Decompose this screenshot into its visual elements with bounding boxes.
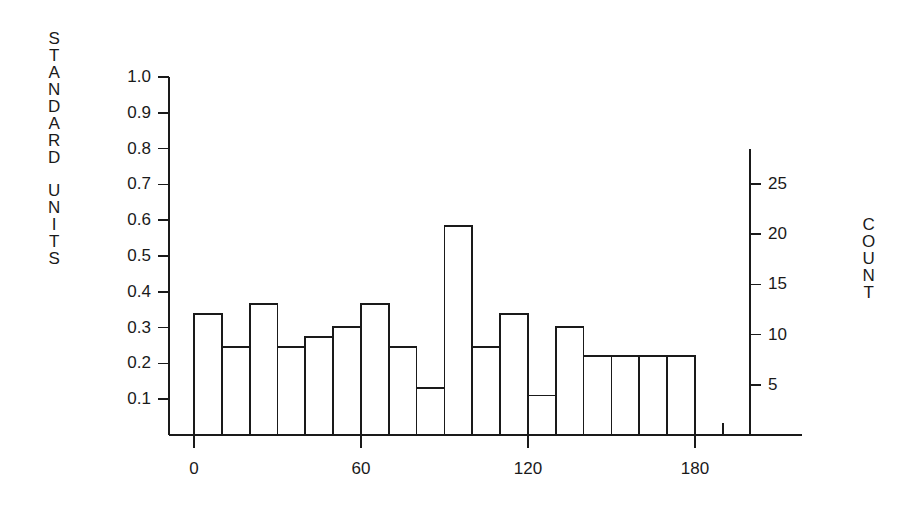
- axis-title-char: N: [48, 81, 60, 98]
- axis-title-char: N: [862, 267, 874, 284]
- histogram-bar: [444, 226, 472, 435]
- axis-title-char: S: [48, 30, 59, 47]
- x-axis-tick-label-1: 60: [352, 459, 371, 479]
- axis-title-char: A: [48, 64, 59, 81]
- y-axis-tick-label-5: 0.6: [127, 210, 151, 230]
- histogram-bar: [250, 304, 278, 435]
- axis-title-char: S: [48, 250, 59, 267]
- y2-axis-tick-label-4: 25: [768, 174, 787, 194]
- x-axis-tick-label-0: 0: [189, 459, 198, 479]
- y-axis-tick-label-7: 0.8: [127, 139, 151, 159]
- histogram-bar: [611, 356, 639, 435]
- axis-title-char: T: [49, 47, 59, 64]
- y2-axis-tick-label-3: 20: [768, 224, 787, 244]
- histogram-bar: [361, 304, 389, 435]
- axis-title-char: D: [48, 149, 60, 166]
- histogram-bar: [194, 314, 222, 435]
- y-axis-tick-label-8: 0.9: [127, 103, 151, 123]
- histogram-bar: [222, 347, 250, 435]
- histogram-bar: [389, 347, 417, 435]
- axis-title-char: N: [48, 199, 60, 216]
- y-axis-tick-label-2: 0.3: [127, 318, 151, 338]
- axis-title-char: U: [862, 250, 874, 267]
- axis-title-char: R: [48, 132, 60, 149]
- axis-title-char: O: [862, 233, 875, 250]
- y-axis-tick-label-0: 0.1: [127, 389, 151, 409]
- axis-title-char: T: [49, 233, 59, 250]
- y-axis-tick-label-1: 0.2: [127, 353, 151, 373]
- y2-axis-tick-label-2: 15: [768, 274, 787, 294]
- histogram-bar: [500, 314, 528, 435]
- histogram-bar: [556, 327, 584, 435]
- y-axis-title-standard-units: STANDARDUNITS: [48, 30, 60, 267]
- x-axis-tick-label-2: 120: [514, 459, 542, 479]
- axis-title-char: T: [863, 284, 873, 301]
- axis-title-char: C: [862, 216, 874, 233]
- histogram-bar: [305, 337, 333, 435]
- histogram-bar: [417, 388, 445, 435]
- histogram-bar: [639, 356, 667, 435]
- axis-title-char: U: [48, 182, 60, 199]
- y2-axis-title-count: COUNT: [862, 216, 875, 301]
- y2-axis-tick-label-0: 5: [768, 375, 777, 395]
- y-axis-tick-label-4: 0.5: [127, 246, 151, 266]
- y2-axis-tick-label-1: 10: [768, 325, 787, 345]
- chart-geometry: [158, 77, 802, 448]
- axis-title-char: A: [48, 115, 59, 132]
- axis-title-char: D: [48, 98, 60, 115]
- y-axis-tick-label-9: 1.0: [127, 67, 151, 87]
- histogram-bar: [584, 356, 612, 435]
- histogram-bar: [528, 396, 556, 435]
- histogram-figure: STANDARDUNITS COUNT 0.10.20.30.40.50.60.…: [0, 0, 918, 527]
- y-axis-tick-label-6: 0.7: [127, 174, 151, 194]
- histogram-bar: [667, 356, 695, 435]
- x-axis-tick-label-3: 180: [681, 459, 709, 479]
- histogram-bar: [472, 347, 500, 435]
- y-axis-tick-label-3: 0.4: [127, 282, 151, 302]
- histogram-bar: [277, 347, 305, 435]
- axis-title-char: I: [52, 216, 57, 233]
- histogram-bar: [333, 327, 361, 435]
